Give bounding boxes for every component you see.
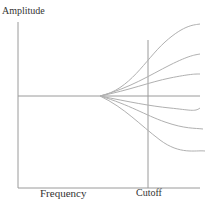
y-axis-label: Amplitude bbox=[2, 5, 45, 16]
curve-cut-2 bbox=[100, 96, 203, 129]
x-axis-label: Frequency bbox=[40, 187, 86, 199]
curve-boost-3 bbox=[100, 24, 200, 96]
curve-cut-1 bbox=[100, 96, 200, 110]
curve-cut-3 bbox=[100, 96, 205, 151]
cutoff-label: Cutoff bbox=[136, 187, 162, 198]
curves bbox=[100, 24, 205, 151]
response-diagram bbox=[0, 0, 217, 209]
curve-boost-1 bbox=[100, 74, 200, 96]
